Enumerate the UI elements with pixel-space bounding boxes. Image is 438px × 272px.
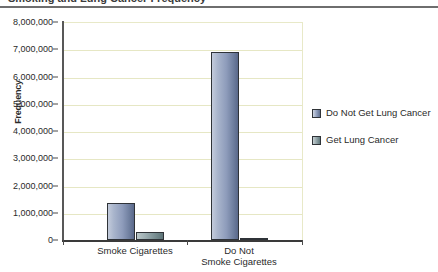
legend-swatch-icon — [312, 109, 321, 118]
y-tick-label: 7,000,000 — [13, 45, 53, 54]
gridline — [63, 214, 302, 215]
chart-legend: Do Not Get Lung CancerGet Lung Cancer — [312, 108, 436, 162]
y-tick-label: 2,000,000 — [13, 181, 53, 190]
y-tick-label: 3,000,000 — [13, 154, 53, 163]
y-tick-label: 4,000,000 — [13, 127, 53, 136]
y-tick-mark — [53, 212, 58, 213]
title-divider — [0, 6, 438, 8]
page-title: Smoking and Lung Cancer Frequency — [8, 0, 206, 4]
x-category-label: Smoke Cigarettes — [75, 245, 195, 256]
y-tick-mark — [53, 76, 58, 77]
bar-do-not-get-lung-cancer — [211, 52, 239, 240]
x-tick-mark — [63, 240, 64, 245]
x-category-label-line: Do Not — [179, 245, 299, 256]
y-tick-mark — [53, 22, 58, 23]
x-tick-mark — [302, 240, 303, 245]
bar-do-not-get-lung-cancer — [107, 203, 135, 240]
legend-item[interactable]: Get Lung Cancer — [312, 135, 436, 145]
bar-get-lung-cancer — [240, 238, 268, 240]
y-tick-label: 8,000,000 — [13, 18, 53, 27]
gridline — [63, 159, 302, 160]
legend-item-label: Get Lung Cancer — [326, 135, 398, 145]
gridline — [63, 132, 302, 133]
x-category-label: Do NotSmoke Cigarettes — [179, 245, 299, 267]
legend-swatch-icon — [312, 136, 321, 145]
plot-area — [63, 22, 303, 242]
x-axis-line — [62, 240, 303, 242]
y-tick-mark — [53, 240, 58, 241]
legend-item-label: Do Not Get Lung Cancer — [326, 108, 431, 118]
y-tick-mark — [53, 131, 58, 132]
y-tick-mark — [53, 49, 58, 50]
y-tick-mark — [53, 185, 58, 186]
legend-item[interactable]: Do Not Get Lung Cancer — [312, 108, 436, 118]
x-category-label-line: Smoke Cigarettes — [179, 256, 299, 267]
x-category-label-line: Smoke Cigarettes — [75, 245, 195, 256]
y-tick-label: 6,000,000 — [13, 72, 53, 81]
gridline — [63, 78, 302, 79]
y-axis-line — [62, 21, 64, 241]
gridline — [63, 187, 302, 188]
y-tick-label: 1,000,000 — [13, 208, 53, 217]
bar-get-lung-cancer — [136, 232, 164, 240]
y-axis-ticks: 01,000,0002,000,0003,000,0004,000,0005,0… — [0, 22, 58, 240]
y-tick-label: 5,000,000 — [13, 99, 53, 108]
y-tick-mark — [53, 158, 58, 159]
gridline — [63, 50, 302, 51]
gridline — [63, 105, 302, 106]
y-tick-mark — [53, 103, 58, 104]
